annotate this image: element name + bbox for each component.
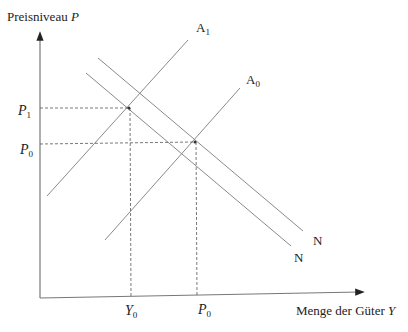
guide-y0	[130, 108, 131, 297]
a1-sub: 1	[205, 27, 210, 37]
x-axis-label: Menge der Güter	[296, 303, 385, 318]
label-a1: A1	[196, 20, 210, 37]
curve-a1	[47, 40, 188, 196]
n-upper-name: N	[313, 233, 322, 248]
guide-p0	[40, 142, 195, 144]
curve-n-lower	[86, 73, 291, 246]
x-axis	[40, 292, 360, 298]
diagram-canvas	[0, 0, 408, 332]
tick-p0-var: P	[20, 142, 29, 157]
tick-x-p0: P0	[198, 302, 211, 319]
equilibrium-point-1	[128, 107, 131, 110]
y-axis-title: Preisniveau P	[7, 9, 79, 25]
a0-name: A	[246, 72, 255, 87]
guide-x-p0	[196, 142, 197, 296]
tick-p0: P0	[20, 142, 33, 159]
tick-p1: P1	[18, 103, 31, 120]
label-n-lower: N	[294, 250, 303, 266]
tick-x-p0-sub: 0	[207, 309, 212, 319]
tick-y0-sub: 0	[133, 310, 138, 320]
label-a0: A0	[246, 72, 260, 89]
n-lower-name: N	[294, 250, 303, 265]
tick-p1-sub: 1	[27, 110, 32, 120]
tick-p1-var: P	[18, 103, 27, 118]
y-axis-var: P	[71, 9, 79, 24]
tick-y0-var: Y	[125, 303, 133, 318]
a1-name: A	[196, 20, 205, 35]
equilibrium-point-0	[194, 141, 197, 144]
label-n-upper: N	[313, 233, 322, 249]
tick-y0: Y0	[125, 303, 137, 320]
curve-n-upper	[98, 58, 303, 231]
curve-a0	[105, 88, 240, 240]
x-axis-var: Y	[388, 303, 395, 318]
y-axis-label: Preisniveau	[7, 9, 68, 24]
tick-p0-sub: 0	[29, 149, 34, 159]
tick-x-p0-var: P	[198, 302, 207, 317]
a0-sub: 0	[255, 79, 260, 89]
x-axis-title: Menge der Güter Y	[296, 303, 395, 319]
